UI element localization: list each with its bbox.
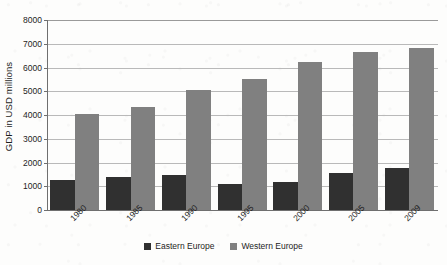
- bar-1995-eastern-europe: [218, 184, 243, 210]
- bar-1980-western-europe: [75, 114, 100, 210]
- y-axis-tick-label: 4000: [23, 110, 42, 120]
- bar-1990-eastern-europe: [162, 175, 187, 210]
- bar-2009-western-europe: [409, 48, 434, 210]
- legend-entry-western-europe: Western Europe: [230, 241, 302, 251]
- y-axis-tick-mark: [44, 210, 48, 211]
- bar-1995-western-europe: [242, 79, 267, 210]
- x-axis-labels: 1980198519901995200020052009: [47, 212, 437, 242]
- y-axis-tick-label: 7000: [23, 39, 42, 49]
- bar-2005-western-europe: [353, 52, 378, 210]
- legend-label: Eastern Europe: [155, 241, 214, 251]
- bar-2005-eastern-europe: [329, 173, 354, 210]
- legend-entry-eastern-europe: Eastern Europe: [144, 241, 214, 251]
- y-axis-tick-label: 8000: [23, 15, 42, 25]
- legend-swatch-icon: [144, 243, 151, 250]
- legend-swatch-icon: [230, 243, 237, 250]
- legend-label: Western Europe: [241, 241, 302, 251]
- chart-legend: Eastern EuropeWestern Europe: [0, 241, 447, 251]
- y-axis-tick-label: 5000: [23, 86, 42, 96]
- bar-2009-eastern-europe: [385, 168, 410, 210]
- bar-1985-western-europe: [131, 107, 156, 210]
- y-axis-tick-label: 3000: [23, 134, 42, 144]
- y-axis-tick-label: 2000: [23, 158, 42, 168]
- y-axis-tick-label: 6000: [23, 63, 42, 73]
- bar-1985-eastern-europe: [106, 177, 131, 210]
- bars-layer: [48, 20, 438, 210]
- y-axis-title-text: GDP in USD millions: [4, 61, 15, 150]
- bar-2000-western-europe: [298, 62, 323, 210]
- y-axis-tick-label: 0: [37, 205, 42, 215]
- bar-1980-eastern-europe: [50, 180, 75, 210]
- bar-1990-western-europe: [186, 90, 211, 210]
- chart-screenshot: GDP in USD millions 01000200030004000500…: [0, 0, 447, 265]
- plot-area: 010002000300040005000600070008000: [47, 20, 438, 211]
- bar-2000-eastern-europe: [273, 182, 298, 211]
- y-axis-title: GDP in USD millions: [0, 0, 18, 212]
- y-axis-tick-label: 1000: [23, 181, 42, 191]
